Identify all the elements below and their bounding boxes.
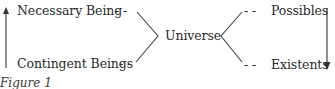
connector-existents: - - bbox=[244, 58, 256, 72]
connector-necessary-being: - - bbox=[115, 4, 127, 18]
figure-caption: Figure 1 bbox=[0, 76, 52, 89]
connector-possibles: - - bbox=[244, 4, 256, 18]
label-universe: Universe bbox=[165, 29, 221, 43]
up-arrow-icon bbox=[3, 7, 9, 68]
connector-contingent-beings: - - bbox=[119, 57, 131, 71]
label-contingent-beings: Contingent Beings bbox=[17, 57, 133, 71]
label-necessary-being: Necessary Being bbox=[17, 4, 122, 18]
label-possibles: Possibles bbox=[271, 4, 328, 18]
right-bracket-connector bbox=[221, 12, 242, 62]
label-existents: Existents bbox=[271, 58, 329, 72]
left-bracket-connector bbox=[136, 12, 158, 62]
